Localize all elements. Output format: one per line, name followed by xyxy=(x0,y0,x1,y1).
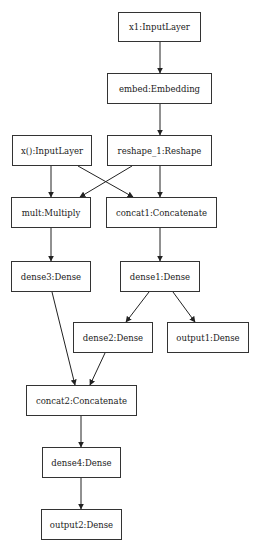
node-label: reshape_1:Reshape xyxy=(118,146,202,156)
node-label: dense2:Dense xyxy=(83,333,143,343)
node-dense1: dense1:Dense xyxy=(120,261,200,292)
edge-dense1-to-output1 xyxy=(173,292,195,322)
node-label: concat1:Concatenate xyxy=(116,208,207,218)
edge-dense3-to-concat2 xyxy=(52,292,75,385)
node-label: x1:InputLayer xyxy=(129,22,190,32)
edge-dense2-to-concat2 xyxy=(90,353,105,385)
node-label: concat2:Concatenate xyxy=(36,396,127,406)
node-label: mult:Multiply xyxy=(22,208,81,218)
node-output2: output2:Dense xyxy=(41,509,122,540)
node-output1: output1:Dense xyxy=(167,322,249,353)
node-label: x():InputLayer xyxy=(21,146,83,156)
node-dense3: dense3:Dense xyxy=(11,261,91,292)
node-dense4: dense4:Dense xyxy=(42,447,121,478)
node-dense2: dense2:Dense xyxy=(73,322,153,353)
node-mult: mult:Multiply xyxy=(11,197,91,228)
node-x0: x():InputLayer xyxy=(12,135,92,166)
edge-dense1-to-dense2 xyxy=(126,292,149,322)
node-reshape: reshape_1:Reshape xyxy=(107,135,212,166)
node-label: dense1:Dense xyxy=(130,272,190,282)
node-x1: x1:InputLayer xyxy=(118,12,201,42)
node-label: output2:Dense xyxy=(50,520,113,530)
node-label: embed:Embedding xyxy=(119,84,200,94)
node-label: output1:Dense xyxy=(176,333,239,343)
node-concat1: concat1:Concatenate xyxy=(106,197,217,228)
node-label: dense4:Dense xyxy=(51,458,111,468)
node-concat2: concat2:Concatenate xyxy=(26,385,137,416)
node-label: dense3:Dense xyxy=(21,272,81,282)
node-embed: embed:Embedding xyxy=(107,73,212,104)
